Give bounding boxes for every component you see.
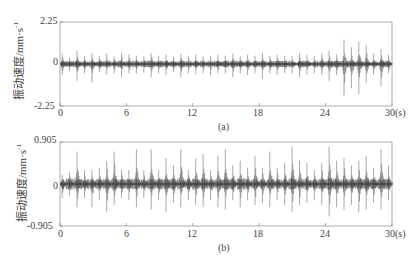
plot-area-b — [60, 142, 393, 226]
plot-area-a — [60, 22, 393, 106]
waveform-plots — [0, 0, 419, 271]
